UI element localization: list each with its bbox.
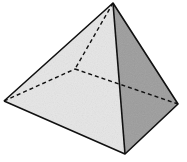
pyramid-diagram (0, 0, 187, 162)
